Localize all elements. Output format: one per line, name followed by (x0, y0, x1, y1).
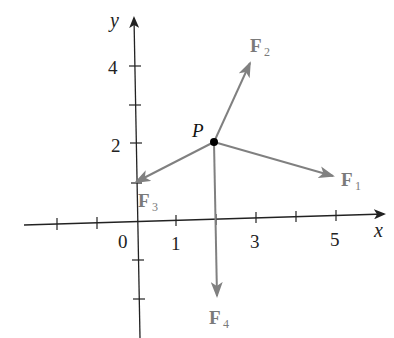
x-tick-label-3: 3 (250, 231, 260, 252)
y-tick-label-2: 2 (111, 135, 121, 156)
x-tick-label-0: 0 (118, 231, 128, 252)
x-tick-label-5: 5 (330, 229, 340, 250)
svg-text:F: F (341, 169, 353, 190)
x-tick-label-1: 1 (171, 233, 181, 254)
vector-f1-label: F 1 (341, 169, 361, 193)
point-p (210, 138, 218, 146)
point-p-label: P (191, 120, 204, 141)
vector-f3-label: F 3 (138, 190, 158, 214)
svg-text:F: F (250, 35, 262, 56)
x-axis (24, 214, 384, 225)
vector-f2 (214, 63, 250, 142)
svg-text:4: 4 (223, 317, 229, 331)
vector-f3 (136, 142, 214, 182)
y-axis-label: y (108, 9, 119, 32)
svg-text:F: F (138, 190, 150, 211)
x-axis-label: x (373, 219, 383, 241)
svg-text:1: 1 (355, 179, 361, 193)
vector-f4-label: F 4 (209, 307, 229, 331)
svg-text:2: 2 (264, 45, 270, 59)
svg-text:F: F (209, 307, 221, 328)
vector-f2-label: F 2 (250, 35, 270, 59)
svg-text:3: 3 (152, 200, 158, 214)
vector-f1 (214, 142, 333, 176)
y-tick-label-4: 4 (108, 57, 118, 78)
force-vector-diagram: y x 4 2 0 1 3 5 P F 1 F 2 F 3 F 4 (0, 0, 394, 338)
